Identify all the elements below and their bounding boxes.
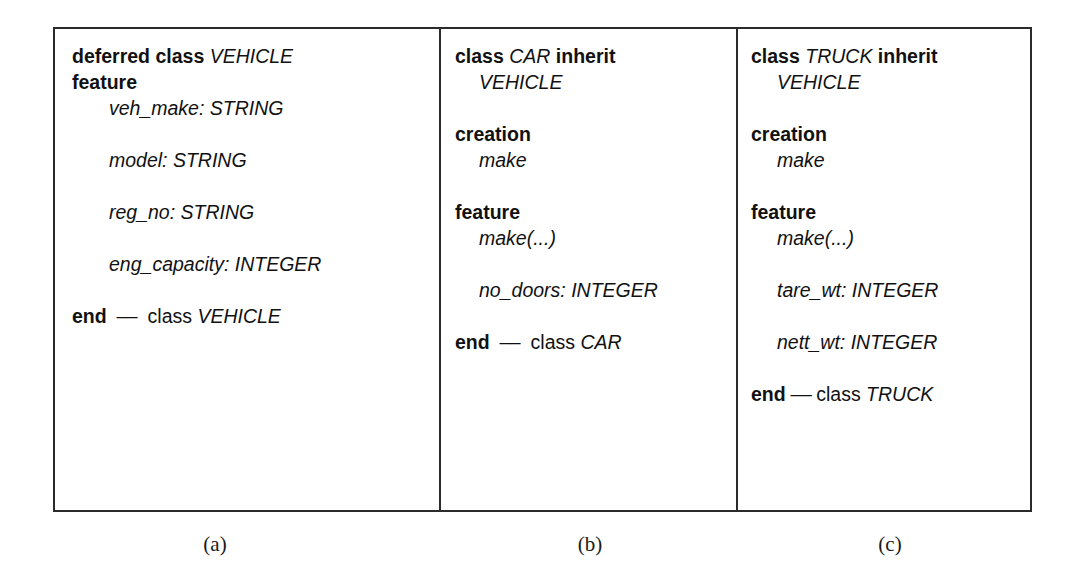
code-token-plain: class: [816, 383, 866, 405]
code-blank-line: [751, 95, 1030, 121]
code-token-identifier: make: [777, 149, 825, 171]
code-line: end –– class TRUCK: [751, 381, 1030, 407]
code-token-identifier: no_doors: INTEGER: [479, 279, 658, 301]
code-token-identifier: make: [479, 149, 527, 171]
code-line: eng_capacity: INTEGER: [72, 251, 439, 277]
code-blank-line: [72, 121, 439, 147]
code-blank-line: [72, 225, 439, 251]
code-line: VEHICLE: [751, 69, 1030, 95]
code-line: end –– class VEHICLE: [72, 303, 439, 329]
code-token-keyword: end: [455, 331, 490, 353]
code-panel-a: deferred class VEHICLEfeatureveh_make: S…: [55, 29, 441, 510]
code-blank-line: [751, 355, 1030, 381]
code-token-identifier: eng_capacity: INTEGER: [109, 253, 321, 275]
code-line: class TRUCK inherit: [751, 43, 1030, 69]
code-line: make(...): [751, 225, 1030, 251]
code-token-keyword: feature: [751, 201, 816, 223]
code-line: feature: [455, 199, 736, 225]
code-token-dash: ––: [490, 331, 525, 353]
code-line: model: STRING: [72, 147, 439, 173]
code-token-identifier: model: STRING: [109, 149, 247, 171]
code-token-identifier: reg_no: STRING: [109, 201, 254, 223]
figure-caption-b: (b): [525, 532, 655, 557]
code-token-identifier: veh_make: STRING: [109, 97, 283, 119]
code-line: creation: [751, 121, 1030, 147]
code-token-identifier: TRUCK: [805, 45, 872, 67]
code-blank-line: [455, 95, 736, 121]
code-token-keyword: end: [72, 305, 107, 327]
code-token-keyword: class: [455, 45, 509, 67]
code-blank-line: [72, 277, 439, 303]
code-line: make: [455, 147, 736, 173]
figure-box: deferred class VEHICLEfeatureveh_make: S…: [53, 27, 1032, 512]
code-token-keyword: inherit: [550, 45, 615, 67]
code-token-identifier: make(...): [777, 227, 854, 249]
code-token-keyword: inherit: [872, 45, 937, 67]
code-block-a: deferred class VEHICLEfeatureveh_make: S…: [55, 43, 439, 329]
code-token-keyword: creation: [751, 123, 827, 145]
code-token-identifier: make(...): [479, 227, 556, 249]
code-block-c: class TRUCK inheritVEHICLE creationmake …: [738, 43, 1030, 407]
code-panel-c: class TRUCK inheritVEHICLE creationmake …: [738, 29, 1030, 510]
code-line: make: [751, 147, 1030, 173]
code-blank-line: [751, 303, 1030, 329]
code-token-identifier: VEHICLE: [197, 305, 280, 327]
code-blank-line: [455, 173, 736, 199]
figure-caption-a: (a): [150, 532, 280, 557]
code-line: VEHICLE: [455, 69, 736, 95]
code-token-dash: ––: [786, 383, 817, 405]
code-line: nett_wt: INTEGER: [751, 329, 1030, 355]
code-line: feature: [72, 69, 439, 95]
code-line: tare_wt: INTEGER: [751, 277, 1030, 303]
code-line: reg_no: STRING: [72, 199, 439, 225]
code-token-keyword: class: [751, 45, 805, 67]
code-line: make(...): [455, 225, 736, 251]
code-block-b: class CAR inheritVEHICLE creationmake fe…: [441, 43, 736, 355]
code-blank-line: [751, 251, 1030, 277]
code-blank-line: [455, 251, 736, 277]
code-token-identifier: nett_wt: INTEGER: [777, 331, 937, 353]
code-token-identifier: VEHICLE: [210, 45, 293, 67]
code-token-keyword: end: [751, 383, 786, 405]
code-panel-b: class CAR inheritVEHICLE creationmake fe…: [441, 29, 738, 510]
figure-caption-c: (c): [825, 532, 955, 557]
code-token-plain: class: [525, 331, 580, 353]
code-token-identifier: CAR: [580, 331, 621, 353]
code-token-plain: class: [142, 305, 197, 327]
code-token-identifier: VEHICLE: [777, 71, 860, 93]
code-token-keyword: feature: [72, 71, 137, 93]
code-token-identifier: CAR: [509, 45, 550, 67]
code-blank-line: [455, 303, 736, 329]
code-blank-line: [751, 173, 1030, 199]
code-line: end –– class CAR: [455, 329, 736, 355]
code-line: deferred class VEHICLE: [72, 43, 439, 69]
code-token-identifier: TRUCK: [866, 383, 933, 405]
code-line: no_doors: INTEGER: [455, 277, 736, 303]
code-token-dash: ––: [107, 305, 142, 327]
code-token-keyword: feature: [455, 201, 520, 223]
code-line: veh_make: STRING: [72, 95, 439, 121]
code-token-identifier: tare_wt: INTEGER: [777, 279, 938, 301]
code-line: feature: [751, 199, 1030, 225]
code-token-keyword: creation: [455, 123, 531, 145]
code-line: class CAR inherit: [455, 43, 736, 69]
code-token-keyword: deferred class: [72, 45, 210, 67]
code-blank-line: [72, 173, 439, 199]
code-token-identifier: VEHICLE: [479, 71, 562, 93]
code-line: creation: [455, 121, 736, 147]
